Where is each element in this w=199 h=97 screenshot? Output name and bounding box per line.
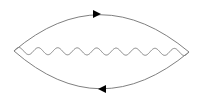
bottom-fermion-line: [14, 51, 189, 89]
feynman-diagram: [0, 0, 199, 97]
bottom-arrow-icon: [98, 85, 106, 93]
photon-wavy-line: [14, 48, 189, 56]
top-fermion-line: [14, 15, 189, 52]
top-arrow-icon: [93, 10, 101, 18]
